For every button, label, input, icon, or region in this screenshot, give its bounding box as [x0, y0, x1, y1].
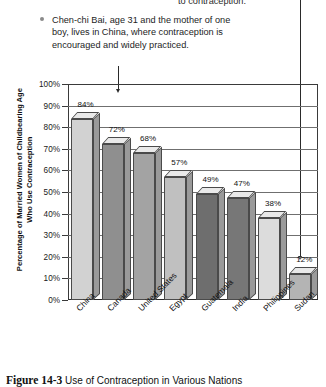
bar-side	[93, 112, 100, 300]
y-axis-tick	[62, 106, 68, 107]
y-axis-tick	[62, 149, 68, 150]
y-axis-tick-label: 60%	[44, 166, 60, 175]
callout-text: Chen-chi Bai, age 31 and the mother of o…	[52, 14, 236, 51]
y-axis-tick	[62, 192, 68, 193]
bullet-icon	[40, 17, 44, 21]
y-axis-tick	[62, 127, 68, 128]
bar-face	[258, 218, 280, 300]
bar-china[interactable]	[71, 119, 93, 300]
y-axis-tick	[62, 257, 68, 258]
y-axis-tick-label: 90%	[44, 101, 60, 110]
figure-number: Figure 14-3	[6, 374, 62, 386]
y-axis-tick-label: 0%	[48, 296, 60, 305]
bar-side	[186, 171, 193, 300]
y-axis-tick-label: 40%	[44, 209, 60, 218]
y-axis-tick-label: 70%	[44, 144, 60, 153]
y-axis-tick-label: 100%	[39, 80, 60, 89]
y-axis-tick-label: 50%	[44, 188, 60, 197]
bar-value-label: 49%	[203, 175, 219, 184]
bar-value-label: 68%	[140, 134, 156, 143]
bar-face	[102, 144, 124, 300]
y-axis-tick	[62, 170, 68, 171]
y-axis-title: Percentage of Married Women of Childbear…	[15, 73, 34, 287]
bar-face	[196, 194, 218, 300]
bar-canada[interactable]	[102, 144, 124, 300]
bar-side	[124, 138, 131, 300]
bar-value-label: 72%	[109, 125, 125, 134]
bar-guatemala[interactable]	[196, 194, 218, 300]
y-axis-tick	[62, 300, 68, 301]
bar-value-label: 57%	[171, 158, 187, 167]
y-axis-title-line2: Who Use Contraception	[25, 73, 35, 287]
y-axis-tick-label: 20%	[44, 252, 60, 261]
y-axis-tick	[62, 84, 68, 85]
y-axis-tick-label: 10%	[44, 274, 60, 283]
bar-face	[133, 153, 155, 300]
y-axis-tick-label: 30%	[44, 231, 60, 240]
bar-value-label: 47%	[234, 179, 250, 188]
figure-caption: Figure 14-3 Use of Contraception in Vari…	[6, 374, 326, 387]
grid-line	[68, 106, 318, 107]
bar-philippines[interactable]	[258, 218, 280, 300]
bar-value-label: 84%	[78, 100, 94, 109]
caption-text: Use of Contraception in Various Nations	[65, 375, 242, 386]
plot-area: 100%90%80%70%60%50%40%30%20%10%0% 84%72%…	[68, 84, 318, 300]
callout-annotation-china: Chen-chi Bai, age 31 and the mother of o…	[40, 14, 236, 51]
y-axis-tick	[62, 278, 68, 279]
y-axis-tick	[62, 235, 68, 236]
y-axis-title-line1: Percentage of Married Women of Childbear…	[15, 73, 25, 287]
y-axis-tick	[62, 214, 68, 215]
bar-united-states[interactable]	[133, 153, 155, 300]
y-axis-tick-label: 80%	[44, 123, 60, 132]
bar-side	[249, 192, 256, 300]
grid-line	[68, 127, 318, 128]
bar-side	[155, 147, 162, 300]
bar-face	[71, 119, 93, 300]
bar-value-label: 12%	[296, 255, 312, 264]
clipped-top-annotation: to contraception.	[178, 0, 326, 7]
bar-value-label: 38%	[265, 199, 281, 208]
